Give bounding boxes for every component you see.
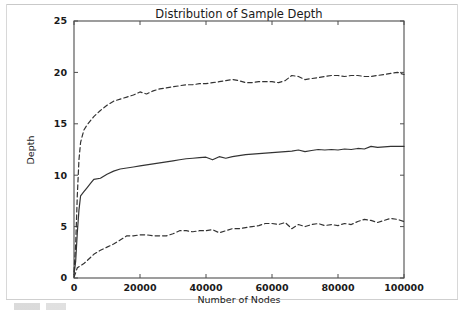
data-series-group [74,72,404,277]
y-tick-label: 25 [54,15,67,26]
x-tick-label: 0 [71,282,78,293]
y-axis-tick-labels: 0510152025 [54,15,68,283]
x-tick-label: 40000 [189,282,222,293]
series-line-upper [74,72,404,271]
x-tick-label: 80000 [321,282,354,293]
series-line-mean [74,146,404,275]
y-tick-label: 20 [54,67,68,78]
y-tick-label: 5 [60,221,67,232]
x-tick-label: 20000 [123,282,156,293]
y-tick-label: 0 [60,272,67,283]
chart-title: Distribution of Sample Depth [155,7,322,21]
x-axis-label: Number of Nodes [197,294,280,305]
series-line-lower [74,218,404,277]
y-axis-label: Depth [25,136,36,165]
x-tick-label: 100000 [384,282,424,293]
x-tick-label: 60000 [255,282,288,293]
y-tick-label: 15 [54,118,67,129]
x-axis-tick-labels: 020000400006000080000100000 [71,282,425,293]
depth-distribution-chart: Distribution of Sample Depth 02000040000… [0,0,463,312]
y-tick-label: 10 [54,170,68,181]
